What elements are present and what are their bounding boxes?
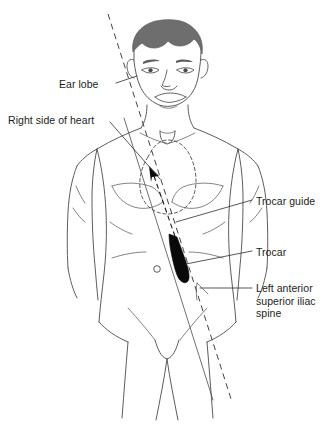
leader-trocar [186,251,252,264]
neck-shoulders-group [77,105,258,166]
left-eyebrow [176,60,193,63]
right-eyebrow [143,60,160,64]
left-ear [201,59,208,78]
label-ear-lobe: Ear lobe [59,78,99,91]
leader-trocar-guide [176,200,252,222]
anatomy-illustration [0,0,334,432]
right-pectoral [112,183,163,202]
nose [162,70,170,87]
arms-group [67,149,268,300]
navel-marker [154,266,161,273]
label-trocar-guide: Trocar guide [256,195,315,208]
right-inguinal-crease [128,308,155,340]
leader-ear-lobe [116,76,137,83]
medical-diagram-figure: Ear lobe Right side of heart Trocar guid… [0,0,334,432]
torso-group [97,149,238,420]
mouth [155,93,186,97]
trocar-guide-secondary [124,118,213,400]
label-trocar: Trocar [256,246,286,259]
hair-shape [133,20,203,54]
left-pectoral [172,183,223,202]
label-left-anterior-superior-iliac-spine: Left anterior superior iliac spine [256,282,316,320]
head-group [127,20,208,109]
iliac-spine-marker [196,283,208,300]
left-inguinal-crease [180,308,207,340]
trocar-guide-axis [108,14,232,402]
label-right-side-of-heart: Right side of heart [8,114,94,127]
